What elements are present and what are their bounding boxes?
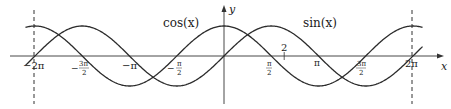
two-label: 2 xyxy=(281,42,287,53)
y-axis-arrow-icon xyxy=(222,5,227,12)
tick-label-minus-2pi: −2π xyxy=(23,60,45,71)
tick-label-2pi: 2π xyxy=(405,58,418,69)
tick-label-pi-2-den: 2 xyxy=(267,69,271,77)
tick-label-3pi-2-num: 3π xyxy=(357,60,366,68)
x-axis-arrow-icon xyxy=(437,54,444,59)
trig-chart: cos(x) sin(x) y x 2 −2π − 3π 2 −π − π 2 … xyxy=(0,0,451,109)
tick-label-minus-pi: −π xyxy=(122,60,137,71)
tick-label-minus-3pi-2-num: 3π xyxy=(79,60,88,68)
tick-label-minus-3pi-2-den: 2 xyxy=(82,69,86,77)
tick-label-pi: π xyxy=(314,58,320,68)
tick-label-minus-3pi-2-sign: − xyxy=(71,63,79,73)
tick-label-3pi-2-den: 2 xyxy=(359,69,363,77)
y-axis-label: y xyxy=(228,3,236,16)
tick-label-minus-pi-2-sign: − xyxy=(167,63,175,73)
tick-label-minus-pi-2-num: π xyxy=(177,60,182,68)
x-axis-label: x xyxy=(441,60,448,73)
tick-label-minus-pi-2-den: 2 xyxy=(177,69,181,77)
tick-label-pi-2-num: π xyxy=(267,60,272,68)
cos-label: cos(x) xyxy=(163,16,199,30)
sin-label: sin(x) xyxy=(303,16,337,30)
